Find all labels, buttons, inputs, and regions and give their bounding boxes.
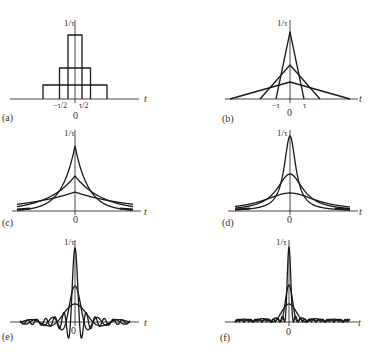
lorentz-pulse-0 (235, 136, 350, 210)
panel-label-e: (e) (2, 332, 13, 342)
tick-label-a-neg: −τ/2 (53, 101, 67, 111)
tick-label-b-pos: τ (303, 101, 306, 111)
y-axis-label-a: 1/τ (64, 18, 75, 28)
panel-label-f: (f) (220, 333, 230, 343)
origin-label-e: 0 (71, 326, 76, 336)
x-axis-label-c: t (144, 207, 147, 217)
tail-left-d (235, 209, 250, 210)
origin-label-a: 0 (73, 111, 78, 121)
y-axis-label-b: 1/τ (277, 18, 288, 28)
y-axis-label-d: 1/τ (277, 128, 288, 138)
origin-label-f: 0 (286, 327, 291, 337)
panel-label-d: (d) (222, 218, 234, 228)
tail-right-d (335, 209, 350, 210)
figure-plots (0, 0, 375, 355)
x-axis-label-a: t (144, 94, 147, 104)
y-axis-label-e: 1/τ (64, 237, 75, 247)
tick-label-a-pos: τ/2 (79, 101, 88, 111)
y-axis-label-f: 1/τ (276, 237, 287, 247)
panel-label-a: (a) (2, 113, 13, 123)
x-axis-label-e: t (144, 318, 147, 328)
sinc2-pulse-0 (235, 247, 350, 322)
origin-label-b: 0 (287, 108, 292, 118)
x-axis-label-b: t (359, 94, 362, 104)
figure: 1/τ t −τ/2 τ/2 0 (a) 1/τ t −τ τ 0 (b) 1/… (0, 0, 375, 355)
origin-label-d: 0 (287, 215, 292, 225)
y-axis-label-c: 1/τ (64, 128, 75, 138)
x-axis-label-f: t (358, 318, 361, 328)
panel-label-b: (b) (222, 114, 234, 124)
tail-left-c (17, 209, 30, 210)
x-axis-label-d: t (359, 207, 362, 217)
origin-label-c: 0 (73, 215, 78, 225)
tick-label-b-neg: −τ (272, 101, 280, 111)
panel-label-c: (c) (2, 218, 13, 228)
tail-right-c (120, 209, 133, 210)
